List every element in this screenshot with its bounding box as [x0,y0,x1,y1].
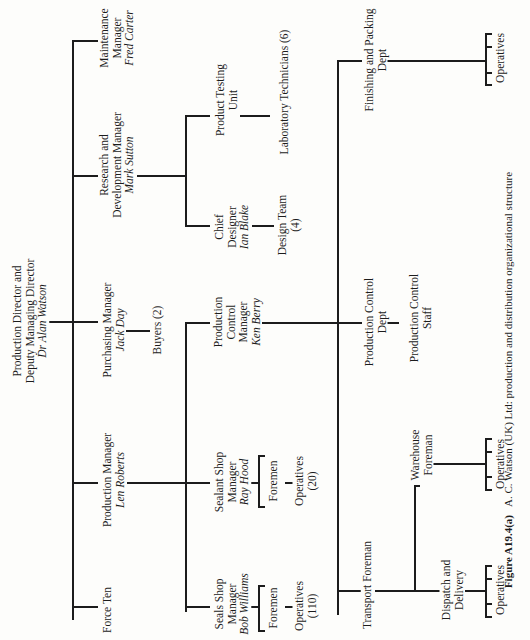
node-finishing-operatives: Operatives [494,30,507,86]
sealant-foremen-label: Foremen [267,461,280,502]
design-team-title-2: (4) [288,195,301,256]
finishing-title-1: Finishing and Packing [363,9,376,112]
chief-designer-title-2: Designer [226,205,239,249]
pcs-title-2: Staff [420,274,433,363]
seals-bracket-top [258,585,265,587]
dp-tick-4 [485,616,492,618]
seals-name: Bob Williams [238,573,251,635]
chief-designer-connector [185,225,210,227]
seals-title-2: Manager [226,573,239,635]
node-maintenance: Maintenance Manager Fred Carter [98,5,136,70]
root-connector [48,321,98,323]
warehouse-connector [414,485,420,487]
node-design-team: Design Team (4) [276,192,301,259]
production-connector [72,482,98,484]
forceten-connector [72,606,98,608]
node-transport: Transport Foreman [361,538,374,632]
figure-label: Figure A19.4(a) [502,515,514,588]
node-lab-techs: Laboratory Technicians (6) [278,27,291,158]
transport-spine [414,485,416,590]
seals-title-1: Seals Shop [213,573,226,635]
finishing-out [387,60,485,62]
finishing-ops-label: Operatives [494,33,507,83]
node-rnd: Research and Development Manager Mark Su… [98,109,136,221]
design-team-connector [252,225,274,227]
node-product-testing: Product Testing Unit [214,61,239,139]
seals-ops-title-1: Operatives [293,581,306,631]
transport-out [375,590,445,592]
node-seals-operatives: Operatives (110) [293,578,318,634]
purchasing-title: Purchasing Manager [101,283,114,378]
production-name: Len Roberts [113,433,126,527]
pcd-title-1: Production Control [363,278,376,367]
rnd-title-2: Development Manager [111,112,124,218]
buyers-label: Buyers (2) [151,306,164,355]
force-ten-label: Force Ten [101,587,114,633]
seals-connector [185,606,210,608]
rnd-connector [72,175,98,177]
maintenance-connector [72,40,98,42]
maintenance-name: Fred Carter [123,8,136,67]
production-title: Production Manager [101,433,114,527]
pcm-title-2: Control [225,297,238,347]
node-finishing: Finishing and Packing Dept [363,6,388,115]
warehouse-title-1: Warehouse [409,430,422,481]
root-name: Dr Alan Watson [36,259,49,384]
fin-tick-4 [485,84,492,86]
pcm-name: Ken Berry [250,297,263,347]
product-testing-connector [185,115,210,117]
dispatch-title-2: Delivery [452,560,465,620]
sealant-bracket-bottom [258,506,265,508]
purchasing-name: Jack Day [113,283,126,378]
transport-connector [337,590,362,592]
warehouse-title-2: Foreman [421,430,434,481]
design-team-title-1: Design Team [276,195,289,256]
finishing-title-2: Dept [375,9,388,112]
maintenance-title-2: Manager [111,8,124,67]
labtech-connector [240,115,270,117]
node-prod-control-dept: Production Control Dept [363,275,388,370]
dispatch-out [465,590,485,592]
root-title-1: Production Director and [11,259,24,384]
production-spine [185,322,187,612]
dp-tick-3 [485,603,492,605]
pcd-staff-connector [387,322,399,324]
seals-bracket-bottom [258,630,265,632]
dispatch-ops-bracket [485,565,487,617]
node-purchasing: Purchasing Manager Jack Day [101,280,126,381]
chief-designer-title-1: Chief [213,205,226,249]
node-sealant-shop: Sealant Shop Manager Ray Hood [213,449,251,515]
pcm-title-1: Production [212,297,225,347]
node-force-ten: Force Ten [101,584,114,636]
pcm-title-3: Manager [237,297,250,347]
pcm-out [262,322,337,324]
sealant-ops-title-1: Operatives [293,456,306,506]
fin-tick-2 [485,46,492,48]
product-testing-title-1: Product Testing [214,64,227,136]
node-warehouse: Warehouse Foreman [409,427,434,484]
wh-tick-3 [485,476,492,478]
seals-ops-title-2: (110) [305,581,318,631]
pcd-title-2: Dept [375,278,388,367]
pcs-title-1: Production Control [408,274,421,363]
warehouse-out [430,463,485,465]
rnd-title-1: Research and [98,112,111,218]
finishing-connector [337,60,362,62]
seals-bracket [258,585,260,631]
node-root: Production Director and Deputy Managing … [11,256,49,387]
wh-tick-2 [485,451,492,453]
wh-tick-1 [485,438,492,440]
finishing-ops-bracket [485,33,487,85]
dispatch-title-1: Dispatch and [440,560,453,620]
node-prod-control-staff: Production Control Staff [408,271,433,366]
warehouse-ops-bracket [485,438,487,490]
figure-caption: Figure A19.4(a)A. C. Watson (UK) Ltd: pr… [502,172,514,588]
figure-caption-text: A. C. Watson (UK) Ltd: production and di… [502,172,514,507]
fin-tick-1 [485,33,492,35]
wh-tick-4 [485,489,492,491]
rnd-out [137,175,185,177]
maintenance-title-1: Maintenance [98,8,111,67]
main-spine [72,40,74,620]
node-buyers: Buyers (2) [151,303,164,358]
pcm-connector [185,322,210,324]
